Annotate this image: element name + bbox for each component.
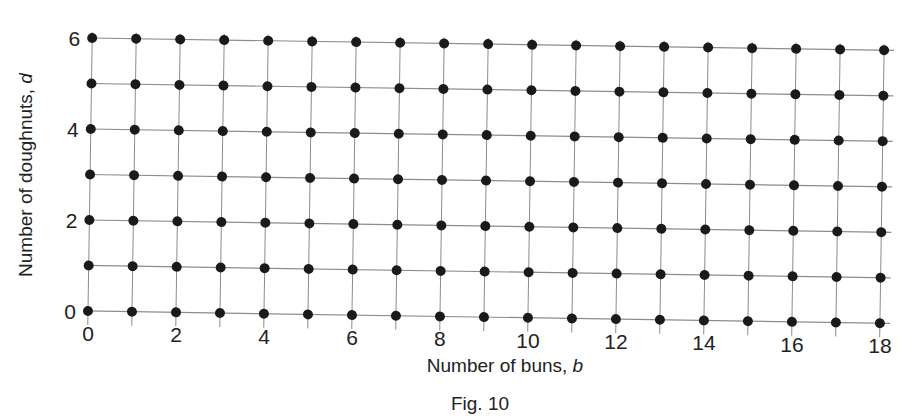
figure-caption: Fig. 10: [451, 393, 509, 415]
data-point: [218, 80, 228, 90]
data-point: [703, 42, 713, 52]
data-point: [834, 135, 844, 145]
data-point: [831, 317, 841, 327]
data-point: [790, 89, 800, 99]
data-point: [834, 90, 844, 100]
data-point: [835, 44, 845, 54]
data-point: [127, 307, 137, 317]
data-point: [787, 317, 797, 327]
data-point: [570, 86, 580, 96]
data-point: [878, 91, 888, 101]
data-point: [303, 309, 313, 319]
data-point: [481, 176, 491, 186]
scatter-plot: 024681012141618 0246 Number of buns, b N…: [0, 0, 924, 420]
x-axis-tick-label: 8: [434, 328, 446, 349]
data-point: [523, 313, 533, 323]
data-point: [260, 263, 270, 273]
x-axis-title: Number of buns, b: [427, 355, 583, 377]
data-point: [526, 131, 536, 141]
data-point: [569, 177, 579, 187]
data-point: [175, 34, 185, 44]
data-point: [305, 173, 315, 183]
data-point: [527, 40, 537, 50]
data-point: [131, 34, 141, 44]
data-point: [130, 125, 140, 135]
data-point: [439, 38, 449, 48]
data-point: [747, 43, 757, 53]
data-point: [304, 264, 314, 274]
data-point: [876, 273, 886, 283]
x-axis-variable: b: [573, 355, 584, 376]
x-axis-tick-label: 16: [780, 334, 803, 355]
data-point: [174, 125, 184, 135]
data-point: [701, 179, 711, 189]
data-point: [128, 216, 138, 226]
data-point: [875, 318, 885, 328]
data-points: [83, 33, 889, 328]
data-point: [570, 131, 580, 141]
data-point: [348, 219, 358, 229]
data-point: [832, 272, 842, 282]
data-point: [351, 37, 361, 47]
x-axis-tick-label: 14: [692, 332, 715, 353]
data-point: [307, 36, 317, 46]
data-point: [347, 310, 357, 320]
data-point: [788, 226, 798, 236]
data-point: [655, 315, 665, 325]
data-point: [479, 312, 489, 322]
data-point: [174, 80, 184, 90]
data-point: [87, 33, 97, 43]
data-point: [216, 262, 226, 272]
data-point: [394, 83, 404, 93]
x-axis-tick-label: 2: [170, 324, 182, 345]
data-point: [744, 271, 754, 281]
data-point: [746, 89, 756, 99]
data-point: [480, 267, 490, 277]
data-point: [438, 129, 448, 139]
data-point: [700, 224, 710, 234]
data-point: [348, 264, 358, 274]
data-point: [746, 134, 756, 144]
data-point: [259, 309, 269, 319]
data-point: [128, 261, 138, 271]
data-point: [656, 269, 666, 279]
data-point: [879, 45, 889, 55]
data-point: [304, 218, 314, 228]
y-axis-title: Number of doughnuts, d: [15, 73, 37, 277]
data-point: [571, 40, 581, 50]
data-point: [568, 268, 578, 278]
x-axis-tick-label: 18: [868, 335, 891, 356]
data-point: [657, 178, 667, 188]
data-point: [261, 172, 271, 182]
data-point: [700, 270, 710, 280]
data-point: [743, 316, 753, 326]
data-point: [173, 171, 183, 181]
data-point: [171, 307, 181, 317]
data-point: [438, 84, 448, 94]
data-point: [350, 83, 360, 93]
data-point: [262, 127, 272, 137]
data-point: [435, 311, 445, 321]
data-point: [612, 223, 622, 233]
data-point: [436, 266, 446, 276]
y-axis-tick-label: 0: [64, 301, 76, 322]
x-axis-tick-label: 4: [258, 326, 270, 347]
data-point: [526, 85, 536, 95]
y-axis-tick-label: 2: [66, 210, 78, 231]
data-point: [788, 271, 798, 281]
data-point: [85, 169, 95, 179]
data-point: [790, 135, 800, 145]
data-point: [658, 133, 668, 143]
gridlines: [86, 32, 894, 337]
data-point: [699, 315, 709, 325]
data-point: [260, 218, 270, 228]
data-point: [656, 224, 666, 234]
data-point: [437, 175, 447, 185]
data-point: [350, 128, 360, 138]
x-axis-tick-label: 0: [82, 323, 94, 344]
data-point: [745, 180, 755, 190]
data-point: [482, 85, 492, 95]
data-point: [306, 82, 316, 92]
data-point: [391, 311, 401, 321]
data-point: [262, 81, 272, 91]
